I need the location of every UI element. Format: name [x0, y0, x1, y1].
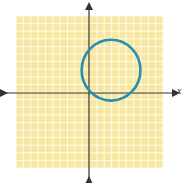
x-axis-label: x [177, 85, 181, 96]
coordinate-plane [0, 0, 187, 183]
